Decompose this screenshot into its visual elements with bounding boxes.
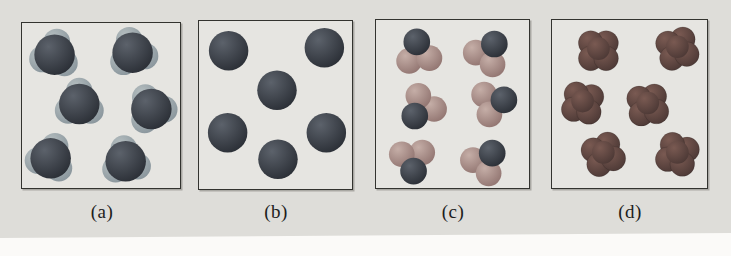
molecule-cluster [627, 84, 669, 126]
panel-d-molecule-box [551, 19, 708, 189]
molecule-cluster [655, 132, 699, 176]
molecule-pyramidal [131, 84, 177, 133]
molecule-bent [463, 31, 508, 78]
panel-label-a: (a) [67, 201, 137, 223]
textbook-figure-page: (a) (b) (c) (d) [0, 0, 731, 256]
molecule-atom [208, 113, 247, 152]
molecule-pyramidal [55, 78, 104, 124]
molecule-pyramidal [25, 133, 73, 182]
molecule-pyramidal [110, 27, 158, 75]
panel-c-molecule-box [375, 19, 530, 189]
molecule-pyramidal [29, 29, 78, 77]
molecules-illustration-d [552, 20, 707, 188]
molecule-cluster [561, 82, 603, 124]
molecule-bent [389, 140, 435, 185]
panel-a-molecule-box [21, 22, 181, 189]
molecule-bent [471, 82, 517, 127]
panel-label-d: (d) [595, 201, 665, 223]
panel-label-b: (b) [241, 201, 311, 223]
panel-label-c: (c) [418, 201, 488, 223]
molecule-atom [305, 28, 344, 67]
molecule-atom [258, 140, 297, 179]
molecule-bent [396, 29, 442, 74]
molecule-cluster [581, 132, 626, 177]
molecule-bent [401, 83, 446, 129]
molecules-illustration-c [376, 20, 529, 188]
molecule-pyramidal [102, 135, 151, 182]
molecules-illustration-a [22, 23, 180, 188]
molecules-illustration-b [199, 21, 352, 189]
molecule-atom [257, 70, 296, 109]
molecule-cluster [656, 27, 699, 70]
panel-b-molecule-box [198, 20, 353, 190]
molecule-cluster [578, 31, 618, 71]
molecule-bent [460, 140, 505, 186]
molecule-atom [307, 113, 346, 152]
molecule-atom [209, 31, 248, 70]
